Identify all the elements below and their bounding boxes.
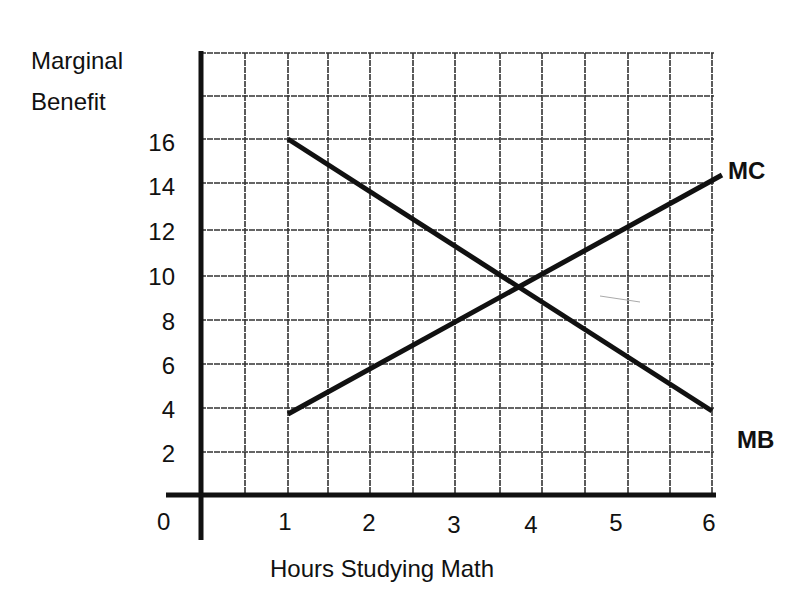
y-axis-title-line1: Marginal (31, 49, 123, 73)
x-tick-3: 3 (439, 513, 469, 537)
y-tick-16: 16 (135, 131, 175, 155)
y-tick-10: 10 (135, 265, 175, 289)
x-tick-2: 2 (354, 511, 384, 535)
y-tick-8: 8 (135, 310, 175, 334)
chart-canvas (0, 0, 806, 609)
y-tick-12: 12 (135, 220, 175, 244)
y-axis-title-line2: Benefit (31, 90, 106, 114)
x-tick-1: 1 (270, 510, 300, 534)
x-tick-4: 4 (516, 513, 546, 537)
y-tick-6: 6 (135, 354, 175, 378)
x-axis-title: Hours Studying Math (270, 557, 494, 581)
origin-label: 0 (157, 510, 170, 534)
x-tick-6: 6 (694, 511, 724, 535)
y-tick-2: 2 (135, 442, 175, 466)
mb-label: MB (737, 428, 774, 452)
grid (200, 53, 714, 495)
y-tick-14: 14 (135, 175, 175, 199)
mc-label: MC (728, 159, 765, 183)
x-tick-5: 5 (601, 511, 631, 535)
y-tick-4: 4 (135, 398, 175, 422)
